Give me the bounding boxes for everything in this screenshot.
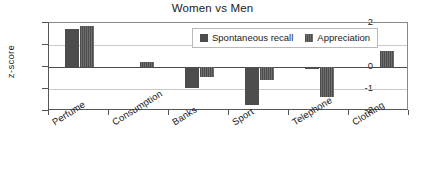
chart-title: Women vs Men (0, 2, 425, 14)
bar (245, 67, 259, 105)
legend-swatch-icon (200, 34, 208, 42)
bar (200, 67, 214, 77)
bar (305, 67, 319, 69)
legend-label: Appreciation (317, 33, 370, 43)
x-tick-mark (168, 110, 169, 115)
y-axis-title: z-score (5, 32, 16, 92)
legend-entry-appreciation: Appreciation (305, 33, 370, 43)
legend-label: Spontaneous recall (212, 33, 293, 43)
bar (65, 29, 79, 68)
bar (140, 62, 154, 67)
bar (260, 67, 274, 80)
bar (320, 67, 334, 97)
x-tick-mark (348, 110, 349, 115)
bar (80, 26, 94, 67)
x-tick-mark (408, 110, 409, 115)
x-tick-mark (48, 110, 49, 115)
x-tick-mark (108, 110, 109, 115)
legend-swatch-icon (305, 34, 313, 42)
bar-chart: Women vs Men z-score 210-1-2 PerfumeCons… (0, 0, 425, 176)
bar (185, 67, 199, 88)
x-tick-mark (228, 110, 229, 115)
chart-legend: Spontaneous recall Appreciation (192, 28, 378, 48)
legend-entry-spontaneous-recall: Spontaneous recall (200, 33, 293, 43)
x-tick-mark (288, 110, 289, 115)
bar (380, 51, 394, 67)
